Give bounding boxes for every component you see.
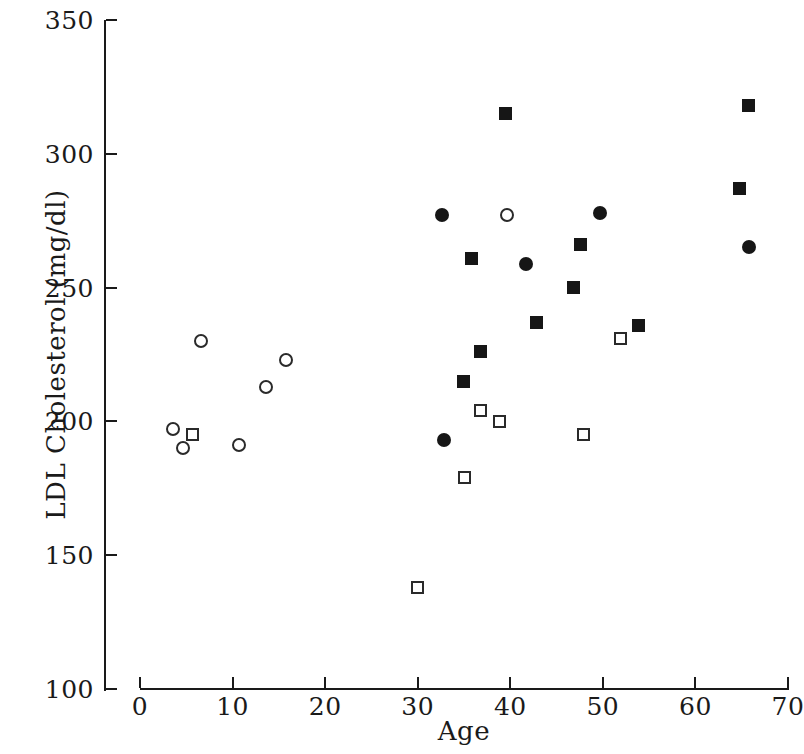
x-tick-label: 0	[132, 692, 148, 721]
y-tick-mark	[106, 19, 117, 21]
data-point-open-circle	[194, 334, 208, 348]
data-point-filled-square	[567, 281, 580, 294]
data-point-open-square	[186, 428, 199, 441]
data-point-open-square	[493, 415, 506, 428]
y-tick-label: 250	[45, 273, 106, 302]
data-point-filled-square	[733, 182, 746, 195]
data-point-filled-circle	[593, 206, 607, 220]
data-point-open-square	[614, 332, 627, 345]
data-point-open-circle	[166, 422, 180, 436]
data-point-open-square	[474, 404, 487, 417]
x-tick-mark	[787, 677, 789, 688]
x-tick-label: 60	[679, 692, 712, 721]
data-point-filled-circle	[519, 257, 533, 271]
data-point-filled-square	[474, 345, 487, 358]
y-tick-mark	[106, 554, 117, 556]
data-point-open-square	[458, 471, 471, 484]
x-tick-label: 10	[216, 692, 249, 721]
x-tick-mark	[417, 677, 419, 688]
data-point-open-circle	[500, 208, 514, 222]
y-axis-label: LDL Cholesterol (mg/dl)	[36, 20, 76, 689]
data-point-open-circle	[259, 380, 273, 394]
x-tick-mark	[602, 677, 604, 688]
data-point-filled-square	[457, 375, 470, 388]
data-point-open-circle	[279, 353, 293, 367]
y-tick-mark	[106, 153, 117, 155]
data-point-filled-square	[742, 99, 755, 112]
y-axis-line	[104, 20, 106, 691]
data-point-open-circle	[232, 438, 246, 452]
data-point-open-square	[577, 428, 590, 441]
x-tick-label: 30	[401, 692, 434, 721]
x-tick-mark	[324, 677, 326, 688]
y-tick-label: 350	[45, 6, 106, 35]
data-point-open-square	[411, 581, 424, 594]
data-point-open-circle	[176, 441, 190, 455]
y-tick-label: 150	[45, 541, 106, 570]
x-tick-mark	[139, 677, 141, 688]
data-point-filled-circle	[437, 433, 451, 447]
data-point-filled-square	[632, 319, 645, 332]
x-tick-label: 20	[309, 692, 342, 721]
x-tick-label: 40	[494, 692, 527, 721]
y-tick-mark	[106, 688, 117, 690]
y-tick-label: 100	[45, 675, 106, 704]
x-axis-line	[140, 688, 789, 690]
data-point-filled-square	[574, 238, 587, 251]
x-tick-mark	[232, 677, 234, 688]
data-point-filled-square	[499, 107, 512, 120]
y-tick-label: 300	[45, 139, 106, 168]
y-tick-mark	[106, 287, 117, 289]
y-tick-mark	[106, 420, 117, 422]
y-tick-label: 200	[45, 407, 106, 436]
x-tick-label: 50	[586, 692, 619, 721]
x-tick-label: 70	[772, 692, 804, 721]
x-tick-mark	[509, 677, 511, 688]
data-point-filled-square	[530, 316, 543, 329]
x-tick-mark	[694, 677, 696, 688]
data-point-filled-square	[465, 252, 478, 265]
data-point-filled-circle	[742, 240, 756, 254]
data-point-filled-circle	[435, 208, 449, 222]
